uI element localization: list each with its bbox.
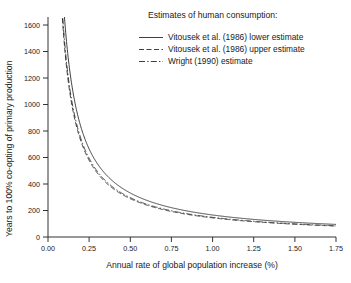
legend-title: Estimates of human consumption:	[148, 10, 277, 20]
chart-figure: Years to 100% co-opting of primary produ…	[0, 0, 351, 283]
y-tick-label: 400	[28, 180, 40, 189]
legend-label: Wright (1990) estimate	[168, 56, 253, 66]
y-axis-title: Years to 100% co-opting of primary produ…	[4, 60, 14, 237]
chart-svg: Years to 100% co-opting of primary produ…	[0, 0, 351, 283]
y-tick-label: 200	[28, 206, 40, 215]
y-tick-label: 800	[28, 127, 40, 136]
chart-background	[0, 0, 351, 283]
y-tick-label: 0	[36, 233, 40, 242]
x-tick-label: 0.75	[164, 244, 178, 253]
y-tick-label: 1000	[24, 100, 40, 109]
legend-label: Vitousek et al. (1986) lower estimate	[168, 32, 304, 42]
x-tick-label: 0.50	[123, 244, 137, 253]
x-axis-title: Annual rate of global population increas…	[106, 260, 278, 270]
x-tick-label: 1.25	[247, 244, 261, 253]
x-tick-label: 1.75	[329, 244, 343, 253]
x-tick-label: 0.25	[82, 244, 96, 253]
x-tick-label: 1.50	[288, 244, 302, 253]
y-tick-label: 1600	[24, 21, 40, 30]
x-tick-label: 0.00	[41, 244, 55, 253]
x-tick-label: 1.00	[206, 244, 220, 253]
y-tick-label: 1200	[24, 74, 40, 83]
y-tick-label: 1400	[24, 47, 40, 56]
y-tick-label: 600	[28, 153, 40, 162]
legend-label: Vitousek et al. (1986) upper estimate	[168, 44, 305, 54]
